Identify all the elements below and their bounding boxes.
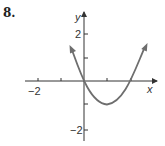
y-tick-label-2: 2 (75, 28, 81, 40)
parabola-curve-drawn (72, 48, 145, 105)
curve-arrow-left-icon (70, 45, 77, 54)
y-tick-label-neg2: −2 (70, 124, 83, 136)
y-axis-label: y (74, 11, 82, 23)
curve-arrow-right-icon (141, 43, 147, 52)
parabola-graph: y x −2 2 −2 (0, 0, 165, 146)
x-tick-label-neg2: −2 (28, 85, 41, 97)
x-axis-label: x (146, 83, 153, 95)
